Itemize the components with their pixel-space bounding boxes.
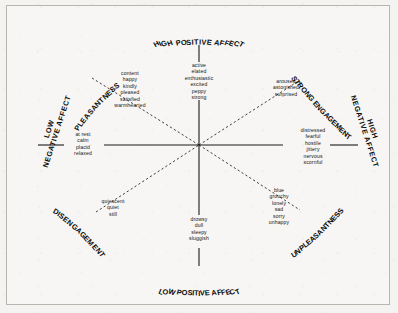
word-group-disengagement: quiescent quiet still — [86, 198, 140, 217]
word-group-high-positive-affect: active elated enthusiastic excited peppy… — [169, 62, 229, 100]
word-item: scornful — [285, 159, 341, 165]
word-item: relaxed — [57, 150, 109, 156]
word-item: sluggish — [172, 235, 226, 241]
affect-circumplex-figure: active elated enthusiastic excited peppy… — [0, 0, 398, 313]
pole-label-high-positive-affect: HIGH POSITIVE AFFECT — [156, 32, 242, 50]
pole-label-char: T — [194, 37, 199, 46]
word-item: unhappy — [251, 219, 307, 225]
word-group-unpleasantness: blue grouchy lonely sad sorry unhappy — [251, 187, 307, 225]
word-group-high-negative-affect: distressed fearful hostile jittery nervo… — [285, 127, 341, 165]
pole-label-low-positive-affect: LOW POSITIVE AFFECT — [157, 280, 242, 298]
word-item: still — [86, 211, 140, 217]
word-item: strong — [169, 94, 229, 100]
word-group-low-positive-affect: drowsy dull sleepy sluggish — [172, 216, 226, 242]
word-group-low-negative-affect: at rest calm placid relaxed — [57, 131, 109, 157]
